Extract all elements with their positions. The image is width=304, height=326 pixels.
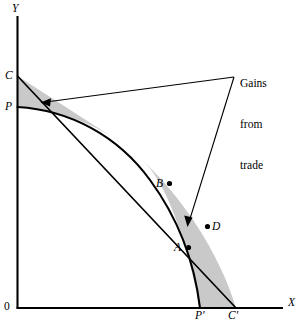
axis-label-origin: 0 [4,301,10,313]
point-label-b: B [156,178,163,190]
lower-gains-shaded-region [140,158,236,308]
ppf-gains-from-trade-figure: Y X 0 C P A B D P′ C′ Gains from trade [0,0,304,326]
point-marker-d [205,224,210,229]
point-label-a: A [174,242,181,254]
annotation-line-1: Gains [240,77,267,91]
leader-line-upper [46,77,234,102]
point-label-c: C [5,70,13,82]
axis-label-y: Y [12,3,18,15]
annotation-line-3: trade [240,159,267,173]
point-label-d: D [212,221,220,233]
annotation-line-2: from [240,118,267,132]
consumption-possibility-line [18,76,237,308]
annotation-arrowheads [41,98,193,227]
axis-label-x: X [288,297,295,309]
point-marker-b [167,181,172,186]
point-label-p-prime: P′ [195,310,205,322]
gains-from-trade-annotation: Gains from trade [240,50,267,199]
point-label-c-prime: C′ [228,310,238,322]
annotation-leader-lines [46,77,234,222]
leader-line-lower [189,77,234,222]
point-marker-a [186,245,191,250]
point-label-p: P [5,101,12,113]
